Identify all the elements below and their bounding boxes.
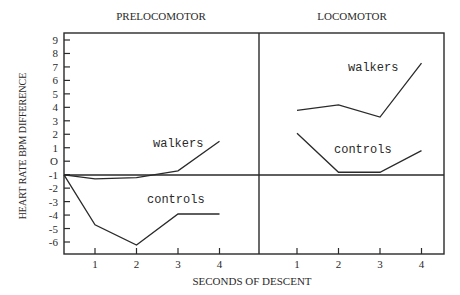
label-prelocomotor-walkers: walkers xyxy=(153,137,203,151)
panel-title-prelocomotor: PRELOCOMOTOR xyxy=(116,10,206,22)
svg-text:4: 4 xyxy=(217,258,223,270)
svg-text:O: O xyxy=(50,155,58,167)
svg-text:-4: -4 xyxy=(49,209,59,221)
svg-text:1: 1 xyxy=(53,142,59,154)
label-locomotor-controls: controls xyxy=(334,143,392,157)
svg-text:8: 8 xyxy=(53,47,59,59)
svg-text:-2: -2 xyxy=(49,182,58,194)
svg-text:9: 9 xyxy=(53,34,59,46)
panel-title-locomotor: LOCOMOTOR xyxy=(317,10,387,22)
svg-text:1: 1 xyxy=(294,258,300,270)
series-prelocomotor-controls xyxy=(64,175,220,245)
x-axis-label: SECONDS OF DESCENT xyxy=(192,275,311,287)
svg-text:1: 1 xyxy=(92,258,98,270)
svg-text:7: 7 xyxy=(53,61,59,73)
svg-text:6: 6 xyxy=(53,74,59,86)
svg-text:3: 3 xyxy=(175,258,181,270)
heart-rate-chart: PRELOCOMOTOR LOCOMOTOR 987654321O-1-2-3-… xyxy=(0,0,460,295)
svg-text:4: 4 xyxy=(419,258,425,270)
svg-text:2: 2 xyxy=(134,258,140,270)
y-axis-ticks: 987654321O-1-2-3-4-5-6 xyxy=(49,34,70,248)
svg-text:3: 3 xyxy=(377,258,383,270)
svg-text:-1: -1 xyxy=(49,169,58,181)
svg-text:2: 2 xyxy=(336,258,342,270)
svg-text:3: 3 xyxy=(53,115,59,127)
svg-text:-3: -3 xyxy=(49,196,59,208)
svg-text:5: 5 xyxy=(53,88,59,100)
svg-text:-6: -6 xyxy=(49,236,59,248)
label-locomotor-walkers: walkers xyxy=(348,61,398,75)
label-prelocomotor-controls: controls xyxy=(147,193,205,207)
y-axis-label: HEART RATE BPM DIFFERENCE xyxy=(17,73,28,220)
svg-text:2: 2 xyxy=(53,128,59,140)
svg-text:-5: -5 xyxy=(49,223,59,235)
svg-text:4: 4 xyxy=(53,101,59,113)
